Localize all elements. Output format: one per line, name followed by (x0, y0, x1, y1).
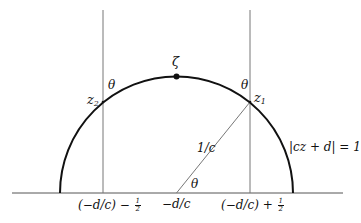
circle-equation-label: |cz + d| = 1 (289, 141, 361, 153)
zeta-label: ζ (172, 55, 179, 68)
left-tick-label: (−d/c) − 12 (78, 198, 141, 213)
z1-letter: z (254, 90, 261, 105)
theta-label-center: θ (191, 178, 198, 190)
z2-subscript: 2 (94, 99, 99, 108)
theta-label-z1: θ (241, 79, 248, 91)
half-fraction-right: 12 (278, 198, 284, 213)
right-tick-main: (−d/c) + (221, 198, 277, 212)
z1-point (249, 101, 252, 104)
radius-label: 1/c (197, 142, 215, 154)
center-tick-label: −d/c (162, 198, 191, 210)
left-tick-main: (−d/c) − (78, 198, 134, 212)
z2-point (102, 101, 105, 104)
z1-label: z1 (254, 91, 266, 106)
z1-subscript: 1 (261, 97, 266, 106)
half-fraction-left: 12 (135, 198, 141, 213)
z2-label: z2 (87, 93, 99, 108)
zeta-point (174, 74, 180, 80)
theta-label-z2: θ (108, 79, 115, 91)
right-tick-label: (−d/c) + 12 (221, 198, 284, 213)
z2-letter: z (87, 92, 94, 107)
